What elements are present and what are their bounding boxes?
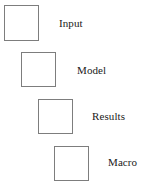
staircase-diagram: Input Model Results Macro bbox=[0, 0, 144, 183]
results-box bbox=[38, 99, 73, 134]
model-label: Model bbox=[77, 64, 106, 76]
input-label: Input bbox=[59, 17, 83, 29]
results-label: Results bbox=[92, 110, 125, 122]
input-box bbox=[4, 5, 39, 41]
macro-box bbox=[54, 146, 89, 181]
model-box bbox=[21, 52, 56, 87]
macro-label: Macro bbox=[108, 156, 137, 168]
